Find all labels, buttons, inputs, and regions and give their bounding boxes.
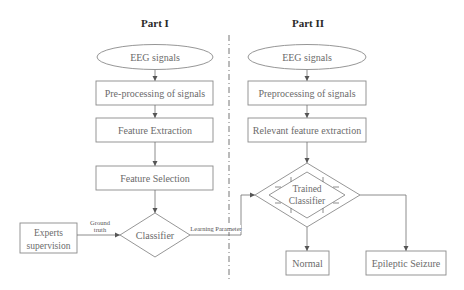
svg-text:Classifier: Classifier (136, 230, 175, 241)
svg-text:EEG signals: EEG signals (282, 52, 332, 63)
svg-text:Relevant feature extraction: Relevant feature extraction (253, 125, 361, 136)
trained-classifier-diamond: Trained Classifier (255, 163, 360, 227)
svg-text:Epileptic Seizure: Epileptic Seizure (372, 258, 441, 269)
svg-text:supervision: supervision (27, 241, 71, 251)
normal-output-box: Normal (286, 251, 329, 275)
svg-text:Feature Selection: Feature Selection (120, 173, 190, 184)
part1-title: Part I (141, 17, 169, 29)
part1-feature-extraction-box: Feature Extraction (96, 118, 213, 142)
svg-text:Pre-processing of signals: Pre-processing of signals (105, 88, 206, 99)
svg-text:Normal: Normal (292, 258, 323, 269)
svg-text:EEG signals: EEG signals (130, 52, 180, 63)
part1-classifier-diamond: Classifier (120, 213, 190, 257)
flowchart: Part I Part II EEG signals Pre-processin… (0, 0, 464, 290)
ground-truth-label: Ground (90, 219, 111, 226)
part2-relevant-feature-extraction-box: Relevant feature extraction (248, 118, 366, 142)
epileptic-seizure-output-box: Epileptic Seizure (366, 251, 446, 275)
svg-text:Preprocessing of signals: Preprocessing of signals (258, 88, 355, 99)
part1-feature-selection-box: Feature Selection (96, 166, 213, 190)
experts-supervision-box: Experts supervision (20, 223, 77, 253)
part2-preprocessing-box: Preprocessing of signals (248, 81, 366, 105)
part1-preprocessing-box: Pre-processing of signals (96, 81, 213, 105)
part2-title: Part II (292, 17, 324, 29)
part1-input-ellipse: EEG signals (97, 45, 213, 70)
arrow-to-seizure (360, 195, 406, 251)
svg-text:Trained: Trained (292, 184, 321, 194)
learning-parameter-label: Learning Parameter (190, 225, 242, 232)
ground-truth-label: truth (94, 226, 107, 233)
svg-text:Experts: Experts (34, 228, 63, 238)
svg-text:Feature Extraction: Feature Extraction (118, 125, 192, 136)
svg-text:Classifier: Classifier (289, 196, 326, 206)
part2-input-ellipse: EEG signals (248, 45, 366, 70)
